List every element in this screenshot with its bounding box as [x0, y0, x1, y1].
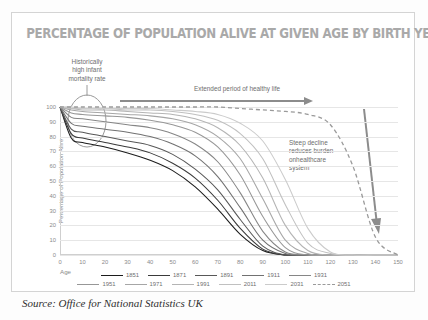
x-tick-label: 60	[192, 259, 198, 265]
legend-item[interactable]: 1911	[242, 272, 280, 278]
y-tick-label: 50	[50, 178, 56, 184]
x-tick-label: 130	[348, 259, 358, 265]
series-line	[60, 107, 398, 255]
legend-swatch	[289, 275, 311, 276]
legend-swatch	[195, 275, 217, 276]
x-tick-label: 20	[102, 259, 108, 265]
legend-swatch	[265, 284, 287, 285]
y-tick-label: 40	[50, 193, 56, 199]
x-tick-label: 90	[260, 259, 266, 265]
series-line	[60, 107, 398, 255]
series-line	[60, 107, 398, 255]
x-tick-label: 30	[124, 259, 130, 265]
legend: 18511871189119111931 1951197119912011203…	[12, 272, 416, 290]
healthy-life-arrow-head-icon	[304, 97, 313, 105]
x-tick-label: 50	[169, 259, 175, 265]
series-line	[60, 107, 398, 256]
legend-swatch	[125, 284, 147, 285]
legend-item[interactable]: 1971	[125, 281, 163, 287]
series-line	[60, 107, 398, 256]
x-tick-label: 100	[280, 259, 290, 265]
x-tick-label: 80	[237, 259, 243, 265]
legend-item[interactable]: 2011	[219, 281, 257, 287]
series-line	[60, 107, 398, 255]
legend-label: 1891	[220, 272, 233, 278]
legend-swatch	[313, 284, 335, 285]
legend-item[interactable]: 1951	[77, 281, 115, 287]
screenshot-root: PERCENTAGE OF POPULATION ALIVE AT GIVEN …	[0, 0, 428, 320]
legend-item[interactable]: 1931	[289, 272, 327, 278]
y-tick-label: 80	[50, 134, 56, 140]
plot-area: Percentage of Population Alive Age 01020…	[60, 107, 398, 255]
legend-swatch	[148, 275, 170, 276]
legend-swatch	[172, 284, 194, 285]
legend-label: 1971	[150, 281, 163, 287]
series-line	[60, 107, 398, 255]
legend-label: 2051	[338, 281, 351, 287]
legend-swatch	[101, 275, 123, 276]
legend-label: 1991	[197, 281, 210, 287]
legend-row-bottom: 195119711991201120312051	[12, 281, 416, 287]
survival-curves	[60, 107, 398, 255]
legend-swatch	[77, 284, 99, 285]
legend-item[interactable]: 1891	[195, 272, 233, 278]
source-caption: Source: Office for National Statistics U…	[22, 297, 203, 309]
legend-label: 1871	[173, 272, 186, 278]
legend-row-top: 18511871189119111931	[12, 272, 416, 278]
series-line	[60, 107, 398, 255]
legend-item[interactable]: 1851	[101, 272, 139, 278]
y-tick-label: 0	[53, 252, 56, 258]
legend-label: 2011	[244, 281, 257, 287]
legend-label: 1951	[102, 281, 115, 287]
legend-item[interactable]: 1991	[172, 281, 210, 287]
x-tick-label: 140	[371, 259, 381, 265]
x-tick-label: 40	[147, 259, 153, 265]
x-tick-label: 0	[58, 259, 61, 265]
y-tick-label: 60	[50, 163, 56, 169]
y-tick-label: 70	[50, 148, 56, 154]
legend-label: 1911	[267, 272, 280, 278]
y-tick-label: 20	[50, 222, 56, 228]
series-line	[60, 107, 398, 255]
x-tick-label: 10	[79, 259, 85, 265]
legend-swatch	[242, 275, 264, 276]
series-line	[60, 107, 398, 255]
legend-swatch	[219, 284, 241, 285]
y-tick-label: 10	[50, 237, 56, 243]
x-tick-label: 150	[393, 259, 403, 265]
x-tick-label: 110	[303, 259, 312, 265]
legend-label: 1931	[314, 272, 327, 278]
series-line	[60, 107, 398, 255]
y-tick-label: 100	[46, 104, 56, 110]
legend-label: 2031	[290, 281, 303, 287]
y-tick-label: 30	[50, 208, 56, 214]
legend-item[interactable]: 2051	[313, 281, 351, 287]
legend-label: 1851	[126, 272, 139, 278]
y-tick-label: 90	[50, 119, 56, 125]
x-tick-label: 70	[214, 259, 220, 265]
x-tick-label: 120	[326, 259, 336, 265]
legend-item[interactable]: 2031	[265, 281, 303, 287]
chart-card: PERCENTAGE OF POPULATION ALIVE AT GIVEN …	[11, 12, 415, 292]
legend-item[interactable]: 1871	[148, 272, 186, 278]
